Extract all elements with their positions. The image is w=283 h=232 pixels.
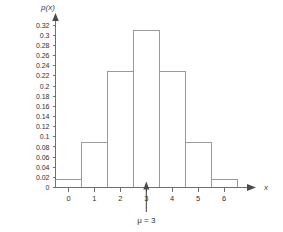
y-tick-label: 0.14 [36,113,50,120]
bar [56,180,82,188]
y-tick-label: 0.1 [40,133,50,140]
y-tick-label: 0.16 [36,103,50,110]
x-tick-label: 4 [170,194,174,203]
y-tick-label: 0 [46,184,50,191]
bar [159,72,185,188]
x-tick-label: 6 [222,194,226,203]
chart-figure: 00.020.040.060.080.10.120.140.160.180.20… [0,0,283,232]
y-tick-label: 0.3 [40,32,50,39]
y-tick-label: 0.06 [36,154,50,161]
y-tick-label: 0.2 [40,83,50,90]
x-tick-label: 1 [92,194,96,203]
binomial-distribution-bar-chart: 00.020.040.060.080.10.120.140.160.180.20… [0,0,283,232]
bar [211,180,237,188]
y-tick-label: 0.28 [36,42,50,49]
x-tick-label: 2 [118,194,122,203]
x-tick-label: 0 [66,194,70,203]
y-tick-label: 0.18 [36,93,50,100]
y-tick-label: 0.12 [36,123,50,130]
bar [81,143,107,188]
x-tick-label: 5 [196,194,200,203]
bar [133,30,159,187]
y-axis: 00.020.040.060.080.10.120.140.160.180.20… [36,3,59,191]
y-tick-label: 0.08 [36,144,50,151]
mean-label: μ = 3 [137,216,156,225]
y-tick-label: 0.26 [36,52,50,59]
y-tick-label: 0.22 [36,72,50,79]
y-axis-label: p(x) [40,3,55,12]
y-tick-label: 0.32 [36,22,50,29]
y-tick-label: 0.24 [36,62,50,69]
bar [185,143,211,188]
y-tick-label: 0.02 [36,174,50,181]
bar [107,72,133,188]
y-tick-label: 0.04 [36,164,50,171]
